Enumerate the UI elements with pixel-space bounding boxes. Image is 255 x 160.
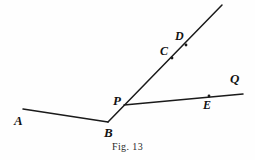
point-label-p: P (113, 94, 121, 107)
figure-caption: Fig. 13 (0, 142, 255, 152)
point-label-c: C (160, 45, 168, 57)
point-dot-e (208, 95, 211, 98)
point-dot-d (185, 44, 188, 47)
point-dot-c (171, 57, 174, 60)
geometry-diagram (0, 0, 255, 160)
point-label-b: B (104, 126, 113, 139)
point-label-a: A (14, 114, 23, 127)
segment-ab (23, 109, 108, 122)
point-label-d: D (175, 30, 184, 42)
point-label-q: Q (230, 72, 239, 85)
point-label-e: E (203, 99, 211, 111)
ray-p-to-q (124, 94, 243, 105)
figure-container: ABPCDEQ Fig. 13 (0, 0, 255, 160)
